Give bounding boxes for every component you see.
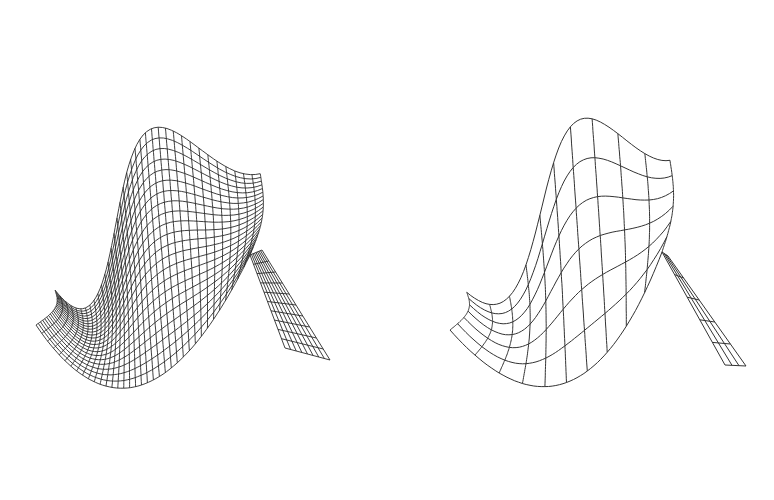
mesh-line-u [450,292,470,330]
fine-wireframe-surface [36,127,330,388]
mesh-line-v [468,206,673,335]
tail-mesh-line [725,365,746,366]
tail-mesh-line [700,320,715,322]
mesh-line-u [111,248,116,387]
tail-mesh-line [668,256,746,366]
tail-mesh-line [666,255,739,366]
mesh-line-u [662,160,674,252]
mesh-line-v [469,158,672,314]
figure-canvas [0,0,774,500]
tail-mesh-line [664,253,732,365]
mesh-line-v [57,191,263,324]
tail-mesh-line [662,252,725,365]
coarse-wireframe-surface [450,118,746,386]
mesh-line-u [114,233,120,388]
tail-mesh-line [712,342,730,344]
surface-tail-flap [662,252,746,366]
mesh-line-v [49,233,259,356]
mesh-line-v [450,252,662,387]
mesh-line-v [36,255,250,388]
surface-tail-flap [250,250,330,360]
mesh-line-v [467,118,670,304]
mesh-line-v [464,221,671,347]
tail-mesh-line [282,339,324,349]
